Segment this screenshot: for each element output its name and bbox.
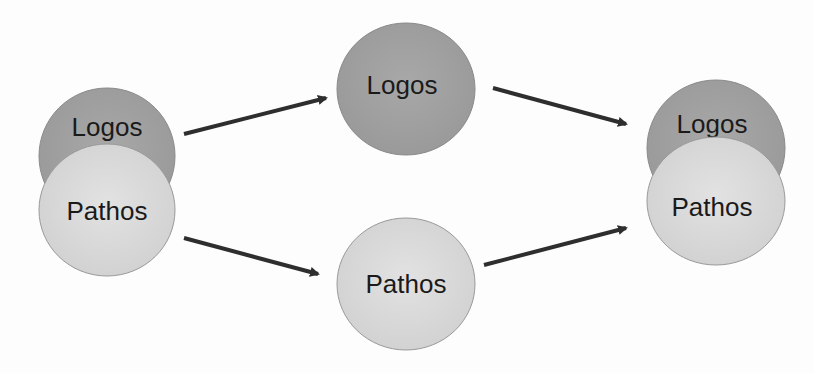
left-pathos-label: Pathos xyxy=(67,196,148,226)
left-group: Logos Pathos xyxy=(39,88,175,276)
diagram-svg: Logos Pathos Logos Pathos Logos Pathos xyxy=(0,0,814,373)
diagram-canvas: Logos Pathos Logos Pathos Logos Pathos xyxy=(0,0,814,373)
middle-logos-label: Logos xyxy=(367,70,438,100)
arrow-left-to-middle-pathos xyxy=(184,238,318,274)
middle-pathos-label: Pathos xyxy=(366,269,447,299)
right-logos-label: Logos xyxy=(677,109,748,139)
arrow-left-to-middle-logos xyxy=(184,98,326,134)
left-logos-label: Logos xyxy=(72,112,143,142)
right-group: Logos Pathos xyxy=(647,80,785,265)
arrow-middle-logos-to-right xyxy=(493,88,626,124)
right-pathos-label: Pathos xyxy=(672,192,753,222)
middle-pathos-node: Pathos xyxy=(337,218,475,350)
arrow-middle-pathos-to-right xyxy=(484,228,626,265)
middle-logos-node: Logos xyxy=(337,23,475,155)
